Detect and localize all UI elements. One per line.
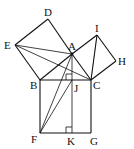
right-angle-mark-j	[66, 74, 72, 80]
label-g: G	[90, 135, 98, 147]
pythagorean-diagram: D E A I H B J C F K G	[0, 0, 134, 149]
label-b: B	[30, 79, 37, 91]
label-j: J	[74, 82, 79, 94]
right-angle-mark-k	[66, 127, 72, 133]
label-k: K	[67, 135, 75, 147]
segment-hc	[91, 61, 116, 80]
segment-fj	[40, 80, 72, 133]
segment-ac	[72, 54, 91, 80]
point-labels: D E A I H B J C F K G	[4, 6, 126, 147]
point-a-dot	[71, 53, 74, 56]
label-h: H	[118, 55, 126, 67]
segment-ea	[15, 45, 72, 54]
segment-eb	[15, 45, 40, 80]
label-a: A	[68, 40, 76, 52]
segment-fa	[40, 54, 72, 133]
right-angle-marks	[66, 74, 72, 133]
label-f: F	[31, 133, 37, 145]
label-c: C	[93, 79, 100, 91]
segment-ed	[15, 19, 48, 45]
segment-ab	[40, 54, 72, 80]
label-i: I	[95, 22, 99, 34]
segment-ec	[15, 45, 91, 80]
segments	[15, 19, 116, 133]
segment-ih	[97, 35, 116, 61]
label-e: E	[4, 39, 11, 51]
label-d: D	[44, 6, 52, 18]
segment-ic	[91, 35, 97, 80]
